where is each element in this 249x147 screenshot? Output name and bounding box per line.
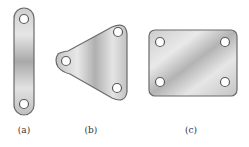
plates-svg <box>0 0 249 147</box>
plate-diagram: (a) (b) (c) <box>0 0 249 147</box>
plate-a <box>14 8 34 115</box>
hole-icon <box>221 38 230 47</box>
hole-icon <box>62 57 71 66</box>
plate-b <box>56 25 127 100</box>
panel-label-a: (a) <box>18 126 30 135</box>
hole-icon <box>156 78 165 87</box>
hole-icon <box>20 15 29 24</box>
plate-c <box>149 30 237 96</box>
hole-icon <box>156 38 165 47</box>
hole-icon <box>114 28 123 37</box>
panel-label-c: (c) <box>185 126 197 135</box>
panel-label-b: (b) <box>85 126 98 135</box>
hole-icon <box>221 78 230 87</box>
hole-icon <box>20 100 29 109</box>
hole-icon <box>113 84 122 93</box>
